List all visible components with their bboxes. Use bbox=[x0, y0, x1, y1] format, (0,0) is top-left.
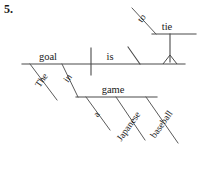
predicate-nominative-slash bbox=[128, 47, 140, 64]
word-adjective-japanese: Japanese bbox=[115, 110, 143, 143]
sentence-diagram-svg: goal is The in game a Japanese baseball … bbox=[0, 0, 197, 170]
word-subject-goal: goal bbox=[39, 51, 57, 62]
sentence-diagram-page: 5. goal is The in bbox=[0, 0, 197, 170]
word-verb-is: is bbox=[106, 51, 113, 62]
word-adjective-baseball: baseball bbox=[149, 108, 175, 140]
word-preposition-in: in bbox=[61, 72, 74, 84]
word-prep-object-game: game bbox=[102, 84, 125, 95]
word-infinitive-verb-tie: tie bbox=[162, 21, 173, 32]
